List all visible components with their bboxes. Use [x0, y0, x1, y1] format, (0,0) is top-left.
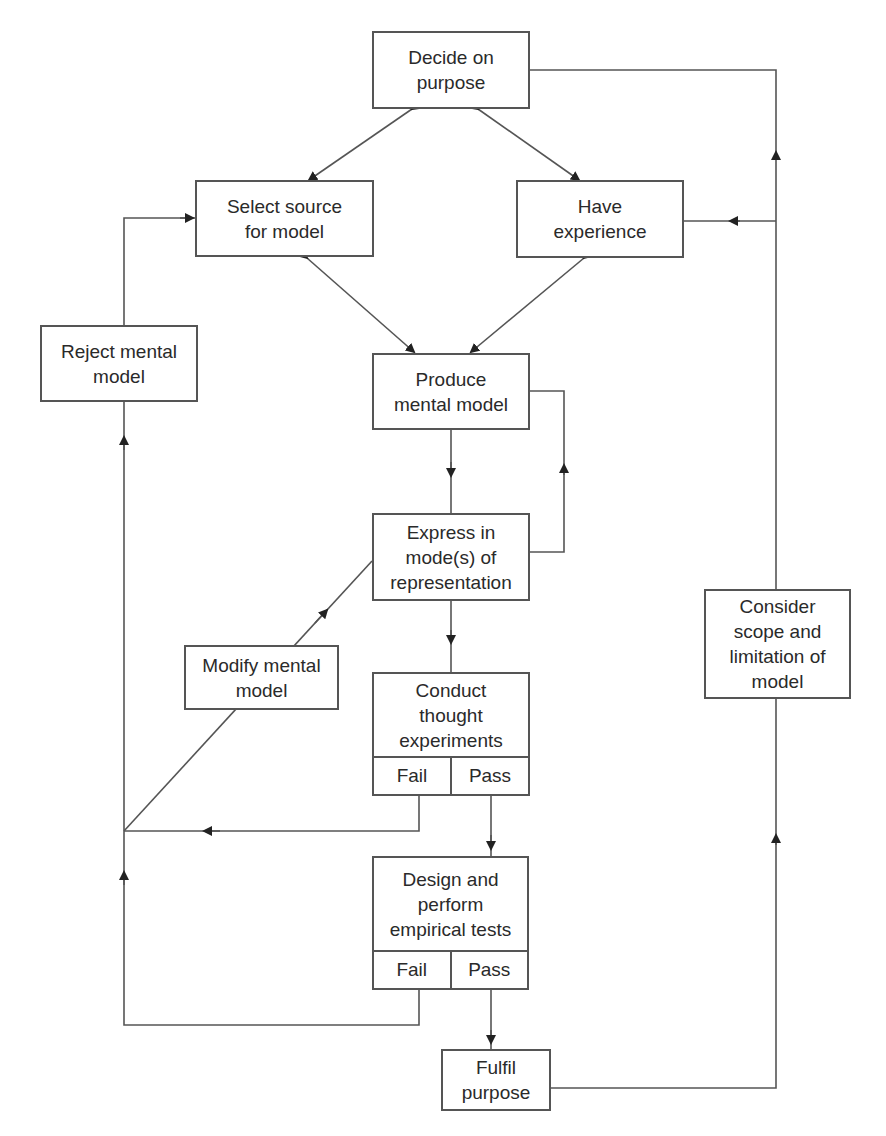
node-label: Produce mental model — [374, 355, 528, 428]
node-label: Fulfil purpose — [443, 1051, 549, 1109]
node-conduct-thought-experiments: Conduct thought experiments Fail Pass — [372, 672, 530, 796]
node-label: Select source for model — [197, 182, 372, 255]
node-fulfil-purpose: Fulfil purpose — [441, 1049, 551, 1111]
node-label: Express in mode(s) of representation — [374, 515, 528, 599]
node-reject-mental-model: Reject mental model — [40, 325, 198, 402]
node-label: Modify mental model — [186, 647, 337, 708]
node-label: Have experience — [518, 182, 682, 256]
node-have-experience: Have experience — [516, 180, 684, 258]
node-label: Reject mental model — [42, 327, 196, 400]
node-label: Consider scope and limitation of model — [706, 591, 849, 697]
node-design-empirical-tests: Design and perform empirical tests Fail … — [372, 856, 529, 990]
node-label: Conduct thought experiments — [374, 674, 528, 756]
fail-outcome: Fail — [374, 758, 450, 794]
node-produce-mental-model: Produce mental model — [372, 353, 530, 430]
pass-outcome: Pass — [450, 952, 528, 988]
outcome-split: Fail Pass — [374, 756, 528, 794]
node-select-source: Select source for model — [195, 180, 374, 257]
node-express-representation: Express in mode(s) of representation — [372, 513, 530, 601]
node-decide-on-purpose: Decide on purpose — [372, 31, 530, 109]
node-label: Design and perform empirical tests — [374, 858, 527, 950]
node-modify-mental-model: Modify mental model — [184, 645, 339, 710]
outcome-split: Fail Pass — [374, 950, 527, 988]
node-label: Decide on purpose — [374, 33, 528, 107]
fail-outcome: Fail — [374, 952, 450, 988]
pass-outcome: Pass — [450, 758, 528, 794]
node-consider-scope: Consider scope and limitation of model — [704, 589, 851, 699]
